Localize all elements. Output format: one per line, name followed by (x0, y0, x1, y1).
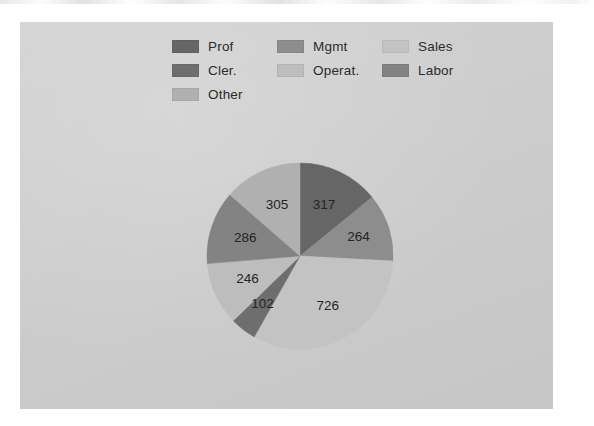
legend-item-sales[interactable]: Sales (382, 39, 482, 54)
legend-item-label: Other (208, 87, 243, 102)
legend-swatch-icon (382, 64, 409, 77)
legend-item-label: Cler. (208, 63, 237, 78)
pie-slice-value-label: 317 (313, 197, 336, 212)
legend-item-label: Labor (418, 63, 454, 78)
legend-item-other[interactable]: Other (172, 87, 277, 102)
legend-swatch-icon (277, 40, 304, 53)
legend-swatch-icon (172, 40, 199, 53)
legend-item-mgmt[interactable]: Mgmt (277, 39, 382, 54)
legend-item-prof[interactable]: Prof (172, 39, 277, 54)
pie-slice-value-label: 726 (316, 298, 339, 313)
pie-slices (207, 163, 393, 349)
chart-legend: ProfMgmtSalesCler.Operat.LaborOther (172, 34, 482, 106)
legend-swatch-icon (172, 64, 199, 77)
legend-item-label: Mgmt (313, 39, 348, 54)
legend-swatch-icon (172, 88, 199, 101)
pie-slice-value-label: 286 (234, 230, 257, 245)
scan-artifact-strip (0, 0, 594, 4)
legend-item-label: Sales (418, 39, 453, 54)
pie-slice-value-label: 246 (236, 271, 259, 286)
legend-item-cler[interactable]: Cler. (172, 63, 277, 78)
pie-slice-value-label: 305 (266, 197, 289, 212)
chart-panel: ProfMgmtSalesCler.Operat.LaborOther 3172… (20, 22, 553, 409)
legend-item-label: Prof (208, 39, 234, 54)
legend-swatch-icon (382, 40, 409, 53)
legend-item-operat[interactable]: Operat. (277, 63, 382, 78)
legend-item-label: Operat. (313, 63, 359, 78)
legend-item-labor[interactable]: Labor (382, 63, 482, 78)
legend-swatch-icon (277, 64, 304, 77)
pie-slice-value-label: 264 (347, 229, 370, 244)
pie-slice-value-label: 102 (251, 296, 274, 311)
